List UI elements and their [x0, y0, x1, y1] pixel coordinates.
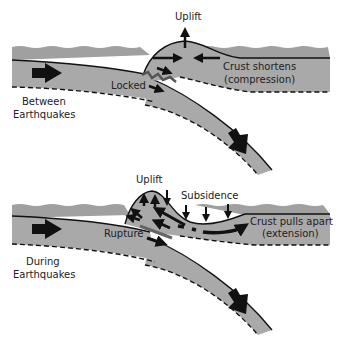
ocean-layer: [12, 46, 150, 60]
label-rupture: Rupture: [104, 228, 144, 239]
label-crust-pulls-apart: Crust pulls apart: [250, 216, 333, 227]
label-subsidence: Subsidence: [181, 190, 239, 201]
caption-earthquakes-top: Earthquakes: [13, 109, 75, 120]
label-crust-shortens: Crust shortens: [223, 61, 296, 72]
subduction-diagram: Uplift Locked Crust shortens (compressio…: [0, 0, 346, 346]
panel-during-earthquakes: Uplift Subsidence Rupture Crust pulls ap…: [12, 174, 333, 335]
label-locked: Locked: [111, 80, 146, 91]
label-extension: (extension): [262, 228, 319, 239]
panel-between-earthquakes: Uplift Locked Crust shortens (compressio…: [12, 11, 330, 175]
caption-between: Between: [22, 96, 66, 107]
caption-during: During: [26, 256, 60, 267]
caption-earthquakes-bottom: Earthquakes: [13, 269, 75, 280]
label-uplift: Uplift: [136, 174, 163, 185]
subducting-slab: [145, 238, 272, 335]
label-compression: (compression): [224, 74, 295, 85]
label-uplift: Uplift: [175, 11, 202, 22]
